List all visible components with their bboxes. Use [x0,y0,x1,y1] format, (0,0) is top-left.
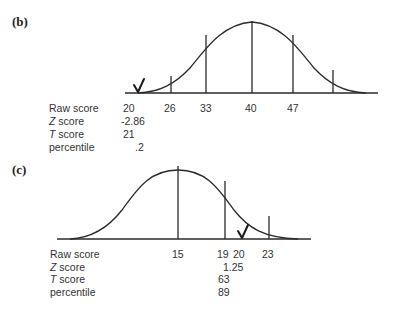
raw-score-20: 20 [123,102,135,114]
percentile-value: 89 [218,286,230,298]
normal-curve [70,170,298,239]
row-label-raw: Raw score [50,248,100,260]
figure: (b) Raw score Z score T score percentile… [0,0,395,319]
raw-score-19: 19 [217,248,229,260]
raw-score-20: 20 [233,248,245,260]
panel-c: (c) Raw score Z score T score percentile… [12,162,311,298]
t-score-value: 63 [218,273,230,285]
check-mark-icon [134,79,144,92]
row-label-percentile: percentile [50,286,96,298]
z-score-value: 1.25 [223,261,244,273]
row-label-z: Z score [49,261,85,273]
row-label-z: Z score [48,115,84,127]
t-score-value: 21 [123,128,135,140]
raw-score-26: 26 [164,102,176,114]
z-score-value: -2.86 [121,115,145,127]
panel-label: (c) [12,162,26,177]
row-label-raw: Raw score [49,102,99,114]
percentile-value: .2 [135,141,144,153]
row-label-t: T score [49,128,84,140]
raw-score-33: 33 [200,102,212,114]
raw-score-47: 47 [287,102,299,114]
raw-score-23: 23 [262,248,274,260]
panel-b: (b) Raw score Z score T score percentile… [12,14,378,153]
check-mark-icon [238,225,248,238]
raw-score-15: 15 [172,248,184,260]
row-label-t: T score [50,273,85,285]
panel-label: (b) [12,14,28,29]
raw-score-40: 40 [245,102,257,114]
row-label-percentile: percentile [49,141,95,153]
